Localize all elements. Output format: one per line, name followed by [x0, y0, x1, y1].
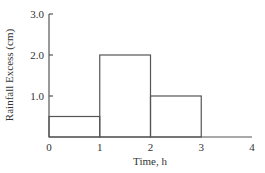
y-tick-label: 1.0: [30, 90, 44, 102]
y-axis-label: Rainfall Excess (cm): [3, 29, 16, 122]
x-ticks: 01234: [46, 141, 255, 153]
x-tick-label: 1: [97, 141, 103, 153]
x-tick-label: 0: [46, 141, 52, 153]
y-tick-label: 2.0: [30, 49, 44, 61]
bar-1-2: [100, 55, 151, 137]
bar-2-3: [151, 96, 202, 137]
x-axis-label: Time, h: [133, 155, 167, 167]
rainfall-excess-hyetograph: 1.02.03.0 01234 Time, h Rainfall Excess …: [0, 0, 265, 173]
x-tick-label: 3: [199, 141, 205, 153]
x-tick-label: 4: [249, 141, 255, 153]
bar-0-1: [49, 117, 100, 138]
chart-canvas: 1.02.03.0 01234 Time, h Rainfall Excess …: [0, 0, 265, 173]
y-tick-label: 3.0: [30, 8, 44, 20]
bars: [49, 55, 201, 137]
x-tick-label: 2: [148, 141, 154, 153]
